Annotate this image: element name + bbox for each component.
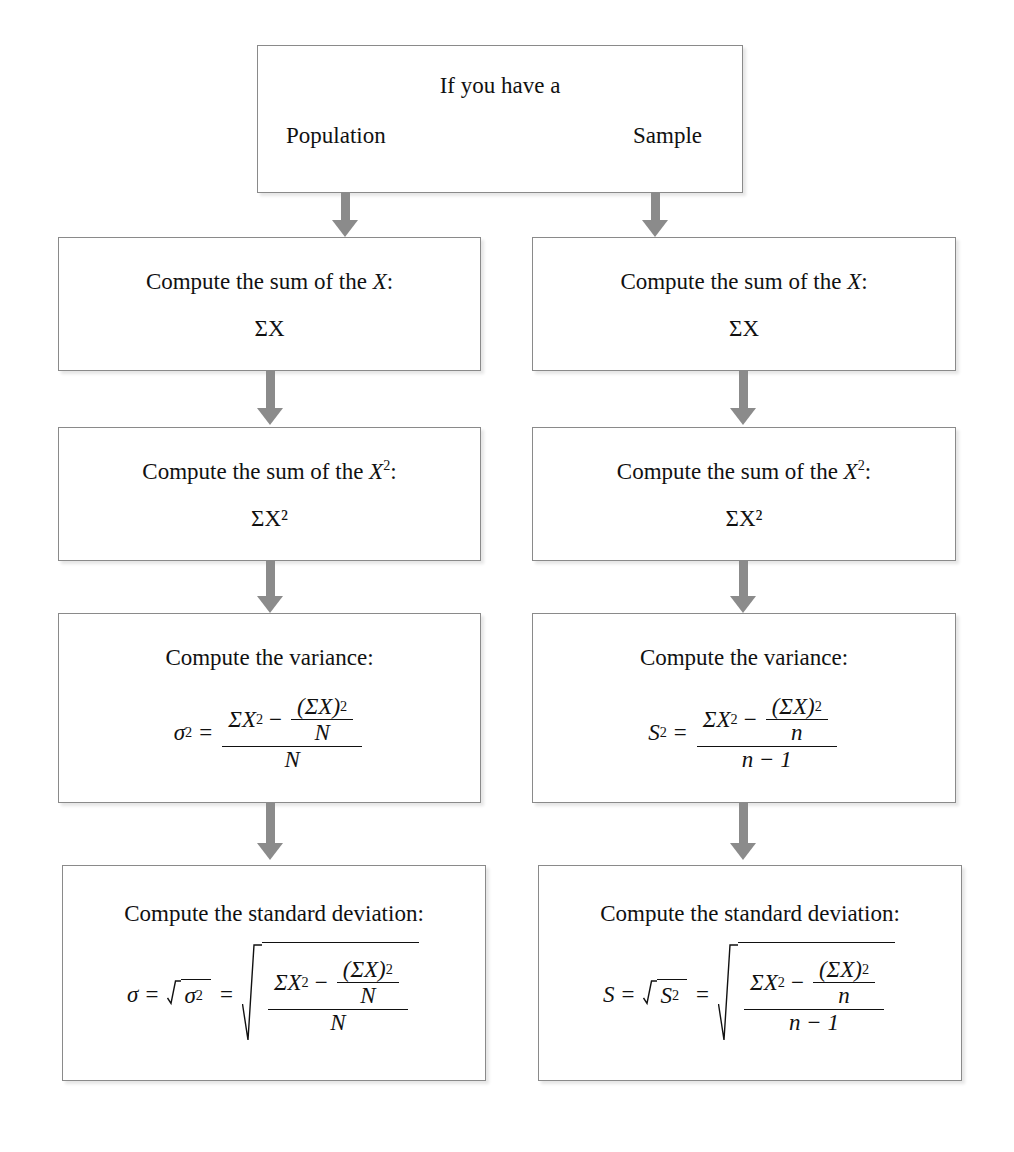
outer-fraction: ΣX2 − (ΣX)2 N N [268,956,408,1035]
formula-text: ΣX [729,317,759,340]
box-sample-sum-x: Compute the sum of the X: ΣX [532,237,956,371]
outer-denominator: n − 1 [783,1010,845,1035]
sum-x-squared: (ΣX) [343,958,386,981]
outer-denominator: n − 1 [736,747,798,772]
sum-x-squared: (ΣX) [819,958,862,981]
formula-sum-x: ΣX [729,317,759,340]
top-box-prompt: If you have a [440,72,561,101]
arrow-right-row2-to-row3 [730,561,756,615]
sum-x-squared: (ΣX) [772,695,815,718]
box-population-variance: Compute the variance: σ2 = ΣX2 − (ΣX)2 N… [58,613,481,803]
arrow-top-to-right-row1 [642,193,668,237]
box-sample-sum-x2: Compute the sum of the X2: ΣX² [532,427,956,561]
sqrt-big-fraction: ΣX2 − (ΣX)2 n n − 1 [718,942,895,1046]
outer-numerator: ΣX2 − (ΣX)2 N [222,693,362,747]
flowchart-canvas: If you have a Population Sample Compute … [0,0,1014,1152]
heading-variable: X [369,459,383,484]
lhs-s: S [648,721,660,744]
minus-sign: − [315,971,328,994]
minus-sign: − [269,708,282,731]
radicand-s-squared: S2 [657,979,687,1009]
arrow-left-row3-to-row4 [257,803,283,863]
inner-numerator: (ΣX)2 [766,694,828,720]
heading-colon: : [865,459,871,484]
outer-fraction: ΣX2 − (ΣX)2 n n − 1 [744,956,884,1035]
outer-numerator: ΣX2 − (ΣX)2 n [744,956,884,1010]
heading-text: Compute the sum of the [146,269,367,294]
heading-text: Compute the sum of the [617,459,838,484]
formula-sum-x2: ΣX² [251,507,288,530]
arrow-left-row1-to-row2 [257,371,283,427]
equals-sign-1: = [621,983,634,1006]
arrow-top-to-left-row1 [332,193,358,237]
sum-x2: ΣX [274,971,302,994]
outer-denominator: N [324,1010,351,1035]
arrow-left-row2-to-row3 [257,561,283,615]
equals-sign-2: = [220,983,233,1006]
lhs-sigma: σ [127,983,138,1006]
step-heading: Compute the standard deviation: [600,900,900,929]
inner-numerator: (ΣX)2 [337,957,399,983]
formula-text: ΣX² [251,507,288,530]
formula-sample-std-dev: S = S2 = ΣX2 [603,942,897,1046]
heading-text: Compute the sum of the [620,269,841,294]
radical-sign-icon [643,979,657,1009]
sum-x2: ΣX [750,971,778,994]
branch-label-population: Population [286,123,386,149]
lhs-sigma: σ [174,721,185,744]
arrow-right-row1-to-row2 [730,371,756,427]
sqrt-big-fraction: ΣX2 − (ΣX)2 N N [242,942,419,1046]
sum-x2: ΣX [703,708,731,731]
top-box-branches: Population Sample [258,123,742,163]
sigma: σ [184,984,195,1007]
top-box: If you have a Population Sample [257,45,743,193]
equals-sign: = [199,721,212,744]
box-sample-std-dev: Compute the standard deviation: S = S2 = [538,865,962,1081]
step-heading: Compute the sum of the X: [620,268,867,297]
branch-label-sample: Sample [633,123,702,149]
box-sample-variance: Compute the variance: S2 = ΣX2 − (ΣX)2 n… [532,613,956,803]
inner-fraction: (ΣX)2 N [337,957,399,1008]
radical-sign-icon [167,979,181,1009]
heading-colon: : [390,459,396,484]
s: S [660,984,672,1007]
inner-denominator: N [354,983,381,1008]
formula-text: ΣX [255,317,285,340]
formula-sum-x: ΣX [255,317,285,340]
minus-sign: − [791,971,804,994]
outer-numerator: ΣX2 − (ΣX)2 n [697,693,837,747]
step-heading: Compute the variance: [640,644,848,673]
inner-fraction: (ΣX)2 n [766,694,828,745]
equals-sign: = [674,721,687,744]
inner-numerator: (ΣX)2 [291,694,353,720]
radical-sign-icon [242,942,262,1046]
step-heading: Compute the sum of the X2: [617,458,871,487]
formula-population-variance: σ2 = ΣX2 − (ΣX)2 N N [174,693,365,772]
outer-fraction: ΣX2 − (ΣX)2 n n − 1 [697,693,837,772]
sum-x2: ΣX [228,708,256,731]
minus-sign: − [744,708,757,731]
inner-fraction: (ΣX)2 N [291,694,353,745]
outer-denominator: N [279,747,306,772]
equals-sign-2: = [696,983,709,1006]
heading-variable: X [847,269,861,294]
inner-numerator: (ΣX)2 [813,957,875,983]
box-population-sum-x: Compute the sum of the X: ΣX [58,237,481,371]
lhs-s: S [603,983,615,1006]
sqrt-sigma-squared: σ2 [167,979,210,1009]
step-heading: Compute the sum of the X2: [142,458,396,487]
formula-sample-variance: S2 = ΣX2 − (ΣX)2 n n − 1 [648,693,840,772]
radical-sign-icon [718,942,738,1046]
inner-denominator: n [785,720,809,745]
step-heading: Compute the variance: [165,644,373,673]
outer-numerator: ΣX2 − (ΣX)2 N [268,956,408,1010]
box-population-std-dev: Compute the standard deviation: σ = σ2 = [62,865,486,1081]
step-heading: Compute the sum of the X: [146,268,393,297]
formula-population-std-dev: σ = σ2 = ΣX2 [127,942,421,1046]
radicand-sigma-squared: σ2 [181,979,210,1009]
equals-sign-1: = [145,983,158,1006]
outer-fraction: ΣX2 − (ΣX)2 N N [222,693,362,772]
arrow-right-row3-to-row4 [730,803,756,863]
inner-fraction: (ΣX)2 n [813,957,875,1008]
formula-sum-x2: ΣX² [726,507,763,530]
